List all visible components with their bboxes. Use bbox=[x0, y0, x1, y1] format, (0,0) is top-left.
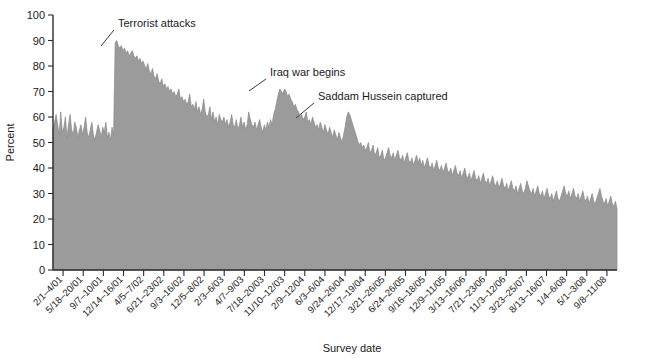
y-tick-label: 100 bbox=[27, 9, 45, 21]
chart-container: 0102030405060708090100Percent2/1–4/015/1… bbox=[0, 0, 652, 363]
annotation-label: Terrorist attacks bbox=[118, 17, 196, 29]
y-tick-label: 0 bbox=[39, 264, 45, 276]
y-tick-label: 60 bbox=[33, 111, 45, 123]
annotation-leader-line bbox=[101, 30, 114, 46]
area-chart: 0102030405060708090100Percent2/1–4/015/1… bbox=[0, 0, 652, 363]
y-tick-label: 90 bbox=[33, 35, 45, 47]
y-tick-label: 30 bbox=[33, 188, 45, 200]
annotation-label: Saddam Hussein captured bbox=[318, 90, 448, 102]
x-axis-title: Survey date bbox=[323, 342, 382, 354]
y-tick-label: 20 bbox=[33, 213, 45, 225]
y-tick-label: 70 bbox=[33, 86, 45, 98]
y-tick-label: 80 bbox=[33, 60, 45, 72]
y-tick-label: 40 bbox=[33, 162, 45, 174]
y-axis-title: Percent bbox=[4, 124, 16, 162]
annotation-leader-line bbox=[249, 79, 266, 91]
annotation-label: Iraq war begins bbox=[270, 66, 346, 78]
y-tick-label: 10 bbox=[33, 239, 45, 251]
y-tick-label: 50 bbox=[33, 137, 45, 149]
